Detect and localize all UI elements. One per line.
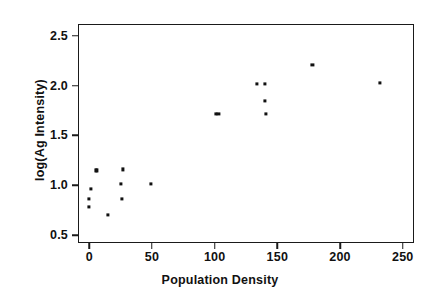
plot-frame xyxy=(78,24,414,243)
y-axis-label: log(Ag Intensity) xyxy=(33,20,47,240)
x-axis-tick-label: 0 xyxy=(86,250,93,264)
x-axis-tick xyxy=(277,243,279,249)
y-axis-tick-label: 2.0 xyxy=(50,79,68,93)
y-axis-tick-label: 2.5 xyxy=(50,29,68,43)
x-axis-tick xyxy=(151,243,153,249)
y-axis-tick xyxy=(72,35,78,37)
y-axis-tick-label: 1.0 xyxy=(50,178,68,192)
y-axis-tick xyxy=(72,85,78,87)
x-axis-label: Population Density xyxy=(0,273,440,287)
x-axis-tick-label: 250 xyxy=(392,250,413,264)
x-axis-tick xyxy=(339,243,341,249)
y-axis-tick xyxy=(72,234,78,236)
y-axis-tick-label: 0.5 xyxy=(50,228,68,242)
x-axis-tick xyxy=(89,243,91,249)
y-axis-tick xyxy=(72,185,78,187)
y-axis-tick xyxy=(72,135,78,137)
x-axis-tick-label: 200 xyxy=(329,250,350,264)
y-axis-tick-label: 1.5 xyxy=(50,128,68,142)
scatter-plot-figure: 050100150200250 0.51.01.52.02.5 Populati… xyxy=(0,0,440,307)
x-axis-tick xyxy=(402,243,404,249)
x-axis-tick-label: 150 xyxy=(267,250,288,264)
x-axis-tick-label: 100 xyxy=(204,250,225,264)
x-axis-tick-label: 50 xyxy=(145,250,159,264)
x-axis-tick xyxy=(214,243,216,249)
